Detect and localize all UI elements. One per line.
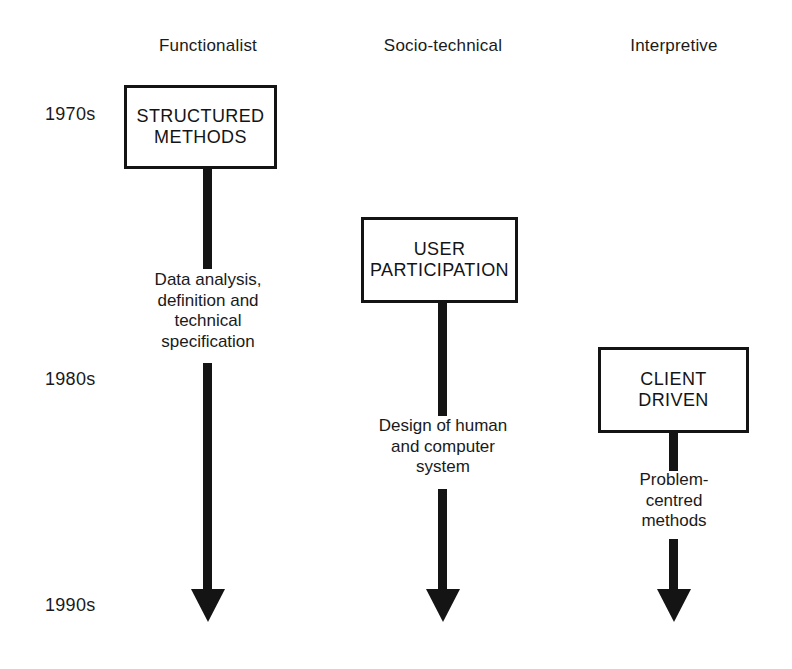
node-label-structured-methods: STRUCTURED METHODS bbox=[137, 106, 265, 148]
node-label-user-participation: USER PARTICIPATION bbox=[370, 239, 509, 281]
node-box-structured-methods: STRUCTURED METHODS bbox=[124, 85, 277, 169]
arrow-head-socio-technical bbox=[426, 589, 460, 622]
flow-caption-interpretive: Problem- centred methods bbox=[589, 470, 759, 532]
connector-stem-functionalist-upper bbox=[203, 169, 212, 269]
connector-stem-socio-technical-upper bbox=[438, 303, 447, 416]
decade-label-1970s: 1970s bbox=[45, 104, 96, 125]
decade-label-1980s: 1980s bbox=[45, 369, 96, 390]
connector-stem-socio-technical-lower bbox=[438, 489, 447, 589]
connector-stem-interpretive-upper bbox=[669, 433, 678, 471]
connector-stem-functionalist-lower bbox=[203, 363, 212, 589]
column-header-socio-technical: Socio-technical bbox=[343, 36, 543, 56]
column-header-interpretive: Interpretive bbox=[574, 36, 774, 56]
arrow-head-functionalist bbox=[191, 589, 225, 622]
node-box-user-participation: USER PARTICIPATION bbox=[361, 217, 518, 303]
node-label-client-driven: CLIENT DRIVEN bbox=[638, 369, 708, 411]
column-header-functionalist: Functionalist bbox=[108, 36, 308, 56]
diagram-canvas: Functionalist Socio-technical Interpreti… bbox=[0, 0, 792, 669]
node-box-client-driven: CLIENT DRIVEN bbox=[598, 347, 749, 433]
flow-caption-functionalist: Data analysis, definition and technical … bbox=[113, 270, 303, 353]
decade-label-1990s: 1990s bbox=[45, 595, 96, 616]
flow-caption-socio-technical: Design of human and computer system bbox=[338, 416, 548, 478]
arrow-head-interpretive bbox=[657, 589, 691, 622]
connector-stem-interpretive-lower bbox=[669, 539, 678, 589]
